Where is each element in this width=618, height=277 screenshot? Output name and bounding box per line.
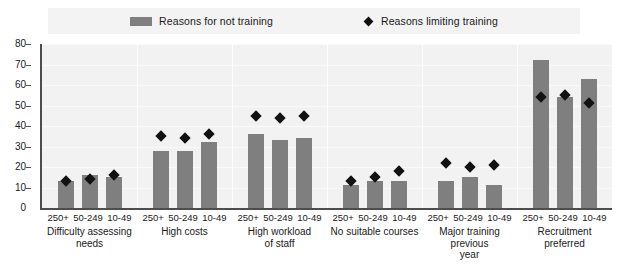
x-axis-labels: 250+50-24910-49Difficulty assessing need…	[0, 212, 618, 277]
y-axis-tick-label: 20	[15, 162, 26, 172]
x-axis-group-label: No suitable courses	[327, 226, 422, 238]
x-axis-category-label: 250+	[523, 212, 544, 223]
diamond-marker-icon	[364, 16, 374, 26]
y-axis-tick-label: 50	[15, 101, 26, 111]
data-point-marker	[250, 110, 261, 121]
y-axis-tick-mark	[26, 167, 31, 168]
x-axis-category-label: 10-49	[297, 212, 321, 223]
y-axis-tick-label: 30	[15, 142, 26, 152]
y-axis-tick-mark	[26, 147, 31, 148]
x-axis-category-label: 250+	[333, 212, 354, 223]
plot-area	[42, 44, 612, 208]
bar-group	[232, 44, 327, 208]
data-point-marker	[488, 159, 499, 170]
bar	[153, 151, 169, 208]
x-axis-group-label: Difficulty assessing needs	[42, 226, 137, 249]
x-axis-category-label: 250+	[428, 212, 449, 223]
bar	[296, 138, 312, 208]
y-axis-tick-label: 80	[15, 39, 26, 49]
y-axis-tick-label: 10	[15, 183, 26, 193]
x-axis-group: 250+50-24910-49Recruitment preferred	[517, 212, 612, 249]
bar	[201, 142, 217, 208]
y-axis-tick-label: 60	[15, 80, 26, 90]
x-axis-category-label: 50-249	[73, 212, 103, 223]
legend-item-bars: Reasons for not training	[130, 15, 273, 27]
bar	[367, 181, 383, 208]
bar-group	[137, 44, 232, 208]
y-axis-tick-mark	[26, 188, 31, 189]
x-axis-category-label: 50-249	[168, 212, 198, 223]
data-point-marker	[464, 161, 475, 172]
y-axis-tick-label: 70	[15, 60, 26, 70]
bar	[486, 185, 502, 208]
bar	[177, 151, 193, 208]
x-axis-group-label: Major training previous year	[422, 226, 517, 261]
data-point-marker	[393, 165, 404, 176]
y-axis-tick-label: 40	[15, 121, 26, 131]
bar-group	[42, 44, 137, 208]
x-axis-category-label: 10-49	[202, 212, 226, 223]
x-axis-line	[40, 208, 612, 210]
y-axis-tick-mark	[26, 44, 31, 45]
x-axis-category-label: 50-249	[358, 212, 388, 223]
bar	[462, 177, 478, 208]
x-axis-category-label: 250+	[238, 212, 259, 223]
legend-label-bars: Reasons for not training	[159, 15, 273, 27]
x-axis-category-label: 50-249	[548, 212, 578, 223]
y-axis-tick-mark	[26, 65, 31, 66]
data-point-marker	[440, 157, 451, 168]
y-axis-tick-mark	[26, 85, 31, 86]
x-axis-group-label: High costs	[137, 226, 232, 238]
data-point-marker	[179, 133, 190, 144]
x-axis-group: 250+50-24910-49Major training previous y…	[422, 212, 517, 261]
bar	[106, 177, 122, 208]
bar	[438, 181, 454, 208]
chart-legend: Reasons for not training Reasons limitin…	[48, 8, 580, 34]
x-axis-category-label: 250+	[48, 212, 69, 223]
bar	[343, 185, 359, 208]
legend-item-markers: Reasons limiting training	[363, 15, 498, 27]
x-axis-group: 250+50-24910-49High workload of staff	[232, 212, 327, 249]
bar-swatch-icon	[130, 17, 152, 26]
data-point-marker	[274, 112, 285, 123]
data-point-marker	[203, 129, 214, 140]
bar	[391, 181, 407, 208]
x-axis-group-label: High workload of staff	[232, 226, 327, 249]
x-axis-category-label: 50-249	[453, 212, 483, 223]
x-axis-category-label: 50-249	[263, 212, 293, 223]
data-point-marker	[298, 110, 309, 121]
data-point-marker	[155, 131, 166, 142]
y-axis: 01020304050607080	[0, 44, 40, 209]
bar	[557, 97, 573, 208]
x-axis-category-label: 10-49	[392, 212, 416, 223]
x-axis-group: 250+50-24910-49High costs	[137, 212, 232, 238]
bar	[248, 134, 264, 208]
plot-area-wrapper: 01020304050607080	[0, 44, 618, 219]
y-axis-tick-mark	[26, 126, 31, 127]
x-axis-category-label: 10-49	[107, 212, 131, 223]
x-axis-category-label: 250+	[143, 212, 164, 223]
bar	[533, 60, 549, 208]
legend-label-markers: Reasons limiting training	[381, 15, 498, 27]
chart-figure: Reasons for not training Reasons limitin…	[0, 0, 618, 277]
x-axis-group: 250+50-24910-49No suitable courses	[327, 212, 422, 238]
x-axis-group: 250+50-24910-49Difficulty assessing need…	[42, 212, 137, 249]
bar	[272, 140, 288, 208]
bar-group	[327, 44, 422, 208]
x-axis-category-label: 10-49	[582, 212, 606, 223]
bar-group	[422, 44, 517, 208]
y-axis-tick-mark	[26, 106, 31, 107]
bar-group	[517, 44, 612, 208]
x-axis-group-label: Recruitment preferred	[517, 226, 612, 249]
x-axis-category-label: 10-49	[487, 212, 511, 223]
